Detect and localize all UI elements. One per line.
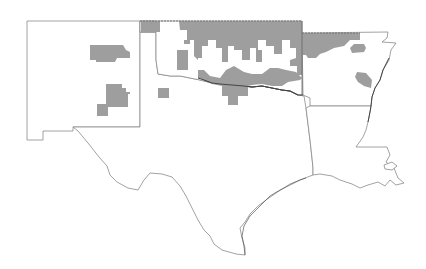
shaded-tx-small-block [158,88,169,98]
regional-map [0,0,426,269]
state-louisiana [306,106,404,188]
shaded-tx-panhandle-block [177,50,188,70]
shaded-ok-panhandle-west [141,21,160,32]
state-new-mexico [27,21,140,140]
